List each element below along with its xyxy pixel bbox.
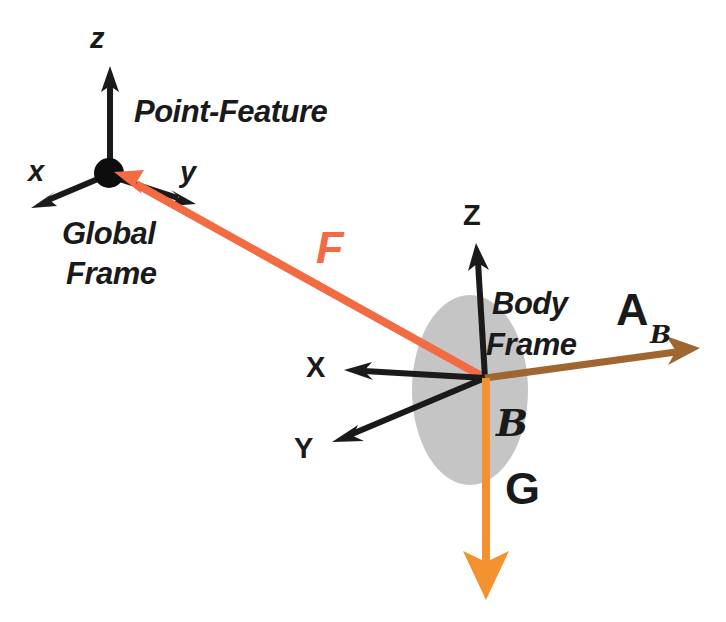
acceleration-vector-A-label-group: AB [616, 287, 669, 333]
global-axis-z-label: z [90, 24, 104, 54]
vector-diagram-figure: z x y Point-Feature Global Frame F Z X Y… [0, 0, 726, 622]
acceleration-vector-A-subscript: B [650, 320, 671, 349]
global-axis-z-arrow [101, 66, 119, 172]
body-axis-Y-label: Y [294, 434, 313, 464]
point-feature-label: Point-Feature [134, 96, 327, 128]
body-frame-label-line1: Body [492, 288, 568, 320]
feature-vector-F-arrow [114, 170, 485, 378]
feature-vector-F-label: F [316, 225, 343, 271]
acceleration-vector-A-label: A [616, 284, 648, 335]
global-frame-label-line2: Frame [66, 258, 157, 290]
gravity-vector-G-label: G [505, 466, 540, 512]
global-axis-y-label: y [180, 158, 196, 188]
body-ellipse [412, 295, 528, 485]
body-axis-X-label: X [306, 353, 325, 383]
global-frame-label-line1: Global [62, 218, 155, 250]
body-frame-label-line2: Frame [486, 329, 577, 361]
body-frame-symbol: B [496, 404, 528, 443]
body-axis-Z-label: Z [463, 201, 481, 231]
global-axis-x-label: x [28, 157, 44, 187]
